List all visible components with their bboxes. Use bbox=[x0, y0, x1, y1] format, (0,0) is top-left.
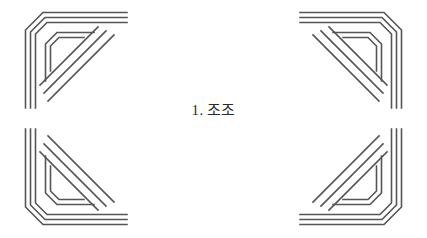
corner-ornament-bottom-right-icon bbox=[299, 127, 403, 226]
page-title-number: 1. bbox=[191, 102, 203, 118]
page-title: 1.조조 bbox=[0, 100, 427, 120]
page-title-text: 조조 bbox=[207, 102, 236, 118]
corner-ornament-bottom-left-icon bbox=[24, 127, 128, 226]
corner-ornament-top-right-icon bbox=[299, 11, 403, 110]
corner-ornament-top-left-icon bbox=[24, 11, 128, 110]
page-canvas: 1.조조 bbox=[0, 0, 427, 238]
